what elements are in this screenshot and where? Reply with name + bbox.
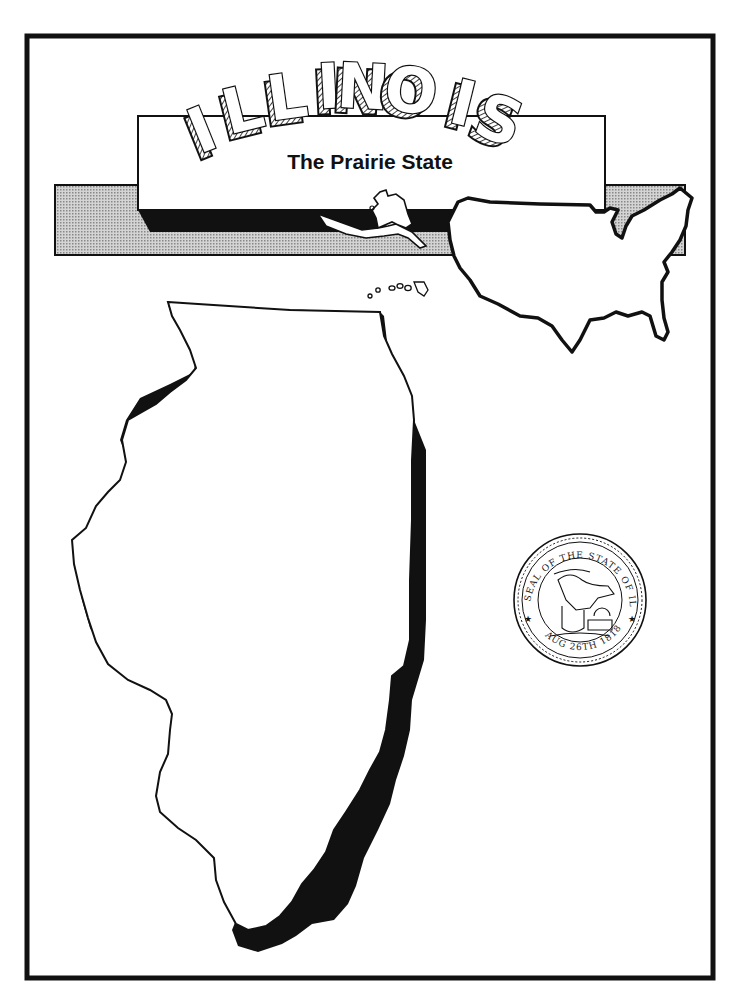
title-letter: OO bbox=[373, 50, 442, 136]
star-icon: ★ bbox=[628, 614, 636, 624]
svg-text:O: O bbox=[380, 51, 442, 131]
title-letter: LL bbox=[256, 58, 312, 143]
state-nickname: The Prairie State bbox=[240, 150, 500, 174]
state-seal: SEAL OF THE STATE OF ILLINOIS AUG 26TH 1… bbox=[514, 534, 646, 666]
star-icon: ★ bbox=[524, 614, 532, 624]
usa-map bbox=[448, 188, 692, 352]
hawaii-map bbox=[368, 282, 428, 298]
